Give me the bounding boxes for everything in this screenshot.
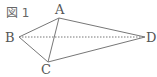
edge-ab <box>19 18 59 37</box>
edge-ad <box>59 18 145 37</box>
edge-bc <box>19 37 48 62</box>
edge-ac <box>48 18 59 62</box>
point-label-c: C <box>41 62 51 77</box>
point-label-a: A <box>54 2 65 17</box>
edge-cd <box>48 37 145 62</box>
figure-caption: 図 1 <box>6 6 29 20</box>
figure-1-diagram: 図 1 A B C D <box>0 0 157 77</box>
point-label-d: D <box>146 30 156 45</box>
point-label-b: B <box>5 30 15 45</box>
